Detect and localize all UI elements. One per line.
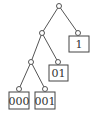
- node-001-icon: [43, 87, 48, 92]
- leaf-label-000: 000: [9, 95, 30, 108]
- leaf-001: 001: [35, 92, 56, 109]
- node-1-icon: [76, 31, 81, 36]
- leaf-01: 01: [49, 65, 68, 81]
- code-tree-diagram: 1 01 000 001: [0, 0, 102, 115]
- edge-root-1: [59, 6, 78, 33]
- edge-0-00: [31, 33, 42, 62]
- leaf-label-001: 001: [35, 95, 56, 108]
- node-00-icon: [29, 60, 34, 65]
- leaf-label-1: 1: [76, 38, 83, 51]
- leaf-000: 000: [9, 92, 30, 109]
- node-01-icon: [56, 60, 61, 65]
- node-0-icon: [40, 31, 45, 36]
- edge-0-01: [42, 33, 58, 62]
- edge-00-001: [31, 62, 45, 89]
- leaf-label-01: 01: [52, 67, 66, 80]
- root-node-icon: [57, 4, 62, 9]
- edge-root-0: [42, 6, 59, 33]
- edge-00-000: [19, 62, 31, 89]
- node-000-icon: [17, 87, 22, 92]
- leaf-1: 1: [69, 36, 89, 52]
